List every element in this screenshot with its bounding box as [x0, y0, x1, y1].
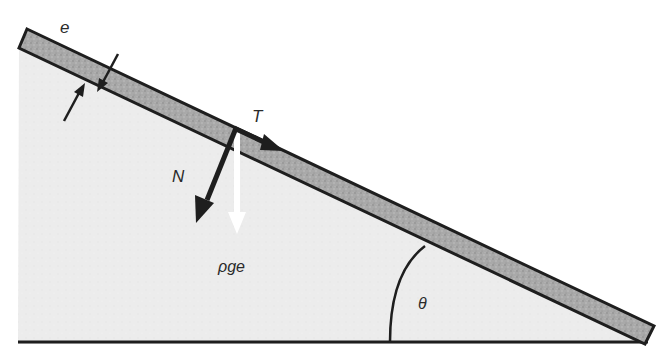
label-normal-force: N — [172, 167, 185, 186]
label-tangential-force: T — [252, 107, 264, 126]
label-angle: θ — [418, 295, 427, 312]
label-weight: ρge — [217, 258, 245, 275]
inclined-slab-diagram: e T N ρge θ — [0, 0, 670, 361]
label-thickness: e — [60, 18, 69, 37]
